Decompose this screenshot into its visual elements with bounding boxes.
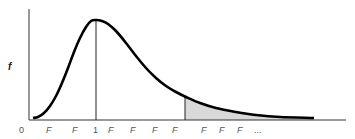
- x-tick-labels: 0 F F 1 F F F F F F F ...: [19, 125, 262, 135]
- x-tick-label: 0: [19, 125, 24, 135]
- x-tick-label: F: [237, 125, 243, 135]
- x-tick-label: F: [130, 125, 136, 135]
- x-tick-label: F: [46, 125, 52, 135]
- x-tick-label: F: [201, 125, 207, 135]
- f-distribution-chart: f 0 F F 1 F F F F F F F ...: [0, 0, 355, 139]
- y-axis-label: f: [8, 61, 13, 72]
- x-tick-label: F: [108, 125, 114, 135]
- x-tick-label: F: [72, 125, 78, 135]
- x-tick-ellipsis: ...: [254, 125, 262, 135]
- x-tick-label: F: [219, 125, 225, 135]
- x-tick-label: F: [172, 125, 178, 135]
- density-curve: [33, 20, 314, 118]
- x-tick-label: 1: [93, 125, 98, 135]
- x-tick-label: F: [152, 125, 158, 135]
